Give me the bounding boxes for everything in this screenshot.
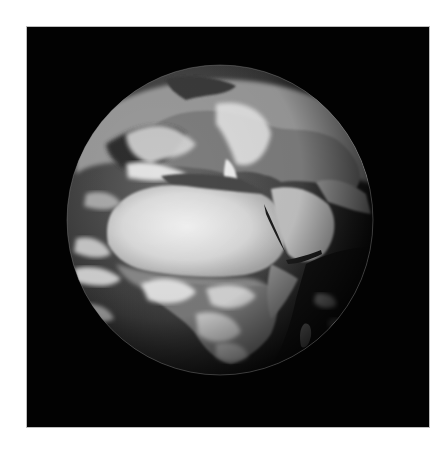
earth-globe: [66, 64, 374, 376]
earth-globe-graphic: [66, 64, 374, 376]
